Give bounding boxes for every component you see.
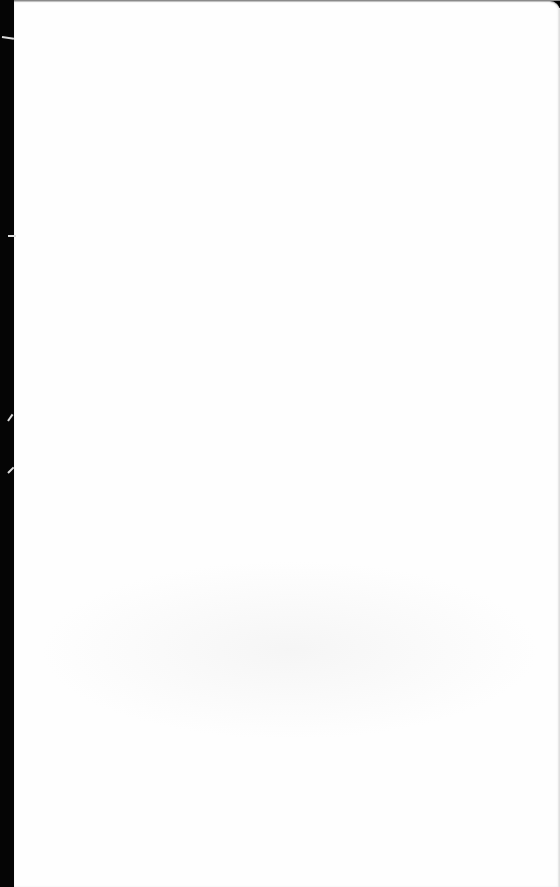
blank-page — [14, 1, 560, 887]
bleed-through-smudge — [40, 560, 540, 740]
edge-nick — [8, 235, 16, 237]
binding-edge — [0, 0, 15, 887]
page-top-edge — [14, 0, 560, 1]
